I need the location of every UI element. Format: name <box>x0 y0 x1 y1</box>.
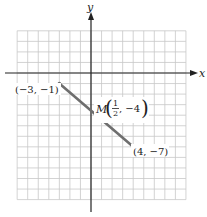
y-axis-label: y <box>86 1 94 14</box>
coordinate-plane: x y (−3, −1) (4, −7) M ( 1 2 , −4 ) <box>0 0 207 217</box>
start-point-label: (−3, −1) <box>15 84 59 95</box>
frac-denominator: 2 <box>113 109 118 118</box>
coordinate-plane-figure: x y (−3, −1) (4, −7) M ( 1 2 , −4 ) <box>0 0 207 217</box>
end-point-label: (4, −7) <box>133 146 168 157</box>
midpoint-y-text: , −4 <box>119 103 140 114</box>
x-axis-arrow-icon <box>190 70 198 76</box>
left-paren: ( <box>105 96 113 120</box>
frac-numerator: 1 <box>113 99 118 108</box>
x-axis-label: x <box>199 67 206 80</box>
right-paren: ) <box>141 96 149 120</box>
